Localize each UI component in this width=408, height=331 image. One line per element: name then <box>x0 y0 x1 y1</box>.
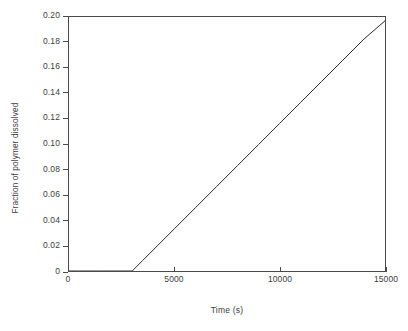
y-axis: 00.020.040.060.080.100.120.140.160.180.2… <box>0 16 68 272</box>
x-axis-title: Time (s) <box>68 305 386 315</box>
y-axis-tick-label: 0.04 <box>43 215 60 226</box>
x-axis-tick-label: 5000 <box>164 274 183 285</box>
y-axis-tick-label: 0.14 <box>43 87 60 98</box>
data-series-line <box>69 21 385 271</box>
y-axis-tick-label: 0.02 <box>43 240 60 251</box>
x-axis-tick-label: 15000 <box>374 274 398 285</box>
x-axis-tick-mark <box>68 267 69 272</box>
plot-area <box>68 16 386 272</box>
x-axis: 050001000015000 <box>68 272 386 302</box>
y-axis-tick-label: 0.08 <box>43 164 60 175</box>
data-line-svg <box>69 17 385 271</box>
x-axis-tick-label: 0 <box>66 274 71 285</box>
y-axis-tick-label: 0.10 <box>43 138 60 149</box>
chart-figure: Fraction of polymer dissolved 00.020.040… <box>0 0 408 331</box>
y-axis-tick-label: 0.18 <box>43 36 60 47</box>
x-axis-tick-mark <box>386 267 387 272</box>
y-axis-tick-label: 0.06 <box>43 189 60 200</box>
y-axis-tick-label: 0.16 <box>43 61 60 72</box>
x-axis-tick-label: 10000 <box>268 274 292 285</box>
x-axis-tick-mark <box>174 267 175 272</box>
y-axis-tick-label: 0 <box>55 266 60 277</box>
x-axis-tick-mark <box>280 267 281 272</box>
y-axis-tick-label: 0.20 <box>43 10 60 21</box>
y-axis-tick-label: 0.12 <box>43 112 60 123</box>
